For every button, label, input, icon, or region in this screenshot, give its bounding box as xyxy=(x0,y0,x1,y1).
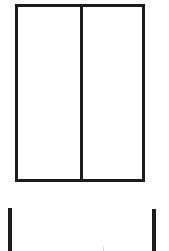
faint-tick-mark xyxy=(103,246,104,251)
center-divider xyxy=(80,7,83,179)
right-post xyxy=(152,209,156,251)
two-pane-frame xyxy=(15,4,145,182)
left-post xyxy=(8,208,12,251)
